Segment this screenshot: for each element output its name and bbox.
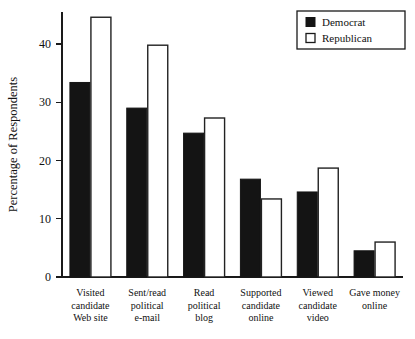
legend-label: Republican [322, 32, 373, 44]
x-axis-category-label: online [362, 300, 388, 311]
y-axis-tick-label: 40 [39, 37, 51, 51]
y-axis-title: Percentage of Respondents [6, 77, 20, 213]
bar-democrat[interactable]: Democrat: 24.7 [184, 133, 204, 277]
bar-republican[interactable]: Republican: 6 [375, 242, 395, 277]
legend-swatch-democrat-icon [306, 18, 315, 27]
bar-group: Democrat: 14.6Republican: 18.7 [297, 168, 338, 277]
x-axis-category-label: candidate [71, 300, 110, 311]
bar-republican[interactable]: Republican: 13.4 [261, 199, 281, 277]
y-axis-tick-label: 0 [45, 270, 51, 284]
y-axis-tick-label: 10 [39, 212, 51, 226]
bar-democrat[interactable]: Democrat: 29 [127, 108, 147, 277]
bar-chart: 010203040Percentage of RespondentsDemocr… [0, 0, 415, 339]
bar-group: Democrat: 16.8Republican: 13.4 [240, 179, 281, 277]
x-axis-category-label: Gave money [349, 287, 400, 298]
bar-group: Democrat: 4.5Republican: 6 [354, 242, 395, 277]
x-axis-category-label: Visited [76, 287, 104, 298]
x-axis-category-label: Viewed [303, 287, 334, 298]
legend-label: Democrat [322, 16, 365, 28]
bar-democrat[interactable]: Democrat: 14.6 [297, 192, 317, 277]
x-axis-category-label: Read [194, 287, 215, 298]
x-axis-category-label: Web site [73, 312, 108, 323]
bar-republican[interactable]: Republican: 18.7 [318, 168, 338, 277]
legend-swatch-republican-icon [306, 34, 315, 43]
y-axis-tick-label: 20 [39, 154, 51, 168]
x-axis-category-label: candidate [242, 300, 281, 311]
bar-democrat[interactable]: Democrat: 4.5 [354, 251, 374, 277]
y-axis-tick-label: 30 [39, 95, 51, 109]
x-axis-category-label: e-mail [134, 312, 160, 323]
bar-democrat[interactable]: Democrat: 16.8 [240, 179, 260, 277]
chart-canvas: 010203040Percentage of RespondentsDemocr… [0, 0, 415, 339]
bar-group: Democrat: 33.4Republican: 44.6 [70, 17, 111, 277]
x-axis-category-label: Supported [240, 287, 281, 298]
x-axis-category-label: video [307, 312, 329, 323]
bar-democrat[interactable]: Democrat: 33.4 [70, 82, 90, 277]
bar-republican[interactable]: Republican: 27.3 [205, 118, 225, 277]
x-axis-category-label: political [131, 300, 164, 311]
x-axis-category-label: Sent/read [128, 287, 166, 298]
bar-group: Democrat: 24.7Republican: 27.3 [184, 118, 225, 277]
x-axis-category-label: blog [195, 312, 213, 323]
bar-group: Democrat: 29Republican: 39.8 [127, 45, 168, 277]
bar-republican[interactable]: Republican: 39.8 [148, 45, 168, 277]
x-axis-category-label: online [248, 312, 274, 323]
bar-republican[interactable]: Republican: 44.6 [91, 17, 111, 277]
x-axis-category-label: candidate [299, 300, 338, 311]
x-axis-category-label: political [188, 300, 221, 311]
